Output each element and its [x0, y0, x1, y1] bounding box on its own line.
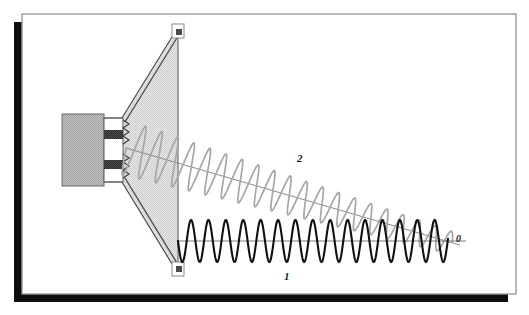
terminal-bottom-icon — [176, 266, 182, 272]
terminal-top-icon — [176, 29, 182, 35]
feed-conductor-upper — [104, 130, 123, 139]
label-observation-point: 0 — [456, 233, 461, 244]
feed-conductor-lower — [104, 160, 123, 169]
feed-throat — [104, 118, 123, 182]
label-ray-2: 2 — [297, 152, 303, 164]
waveguide-feed — [62, 114, 129, 186]
horn-antenna-diagram — [0, 0, 529, 315]
figure-canvas: 1 2 0 — [0, 0, 529, 315]
label-ray-1: 1 — [284, 270, 290, 282]
feed-block — [62, 114, 104, 186]
